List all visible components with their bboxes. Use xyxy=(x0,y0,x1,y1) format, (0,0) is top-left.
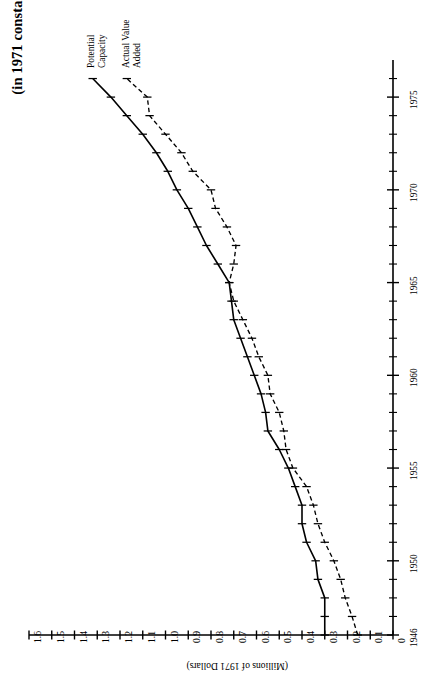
chart-figure: (in 1971 constant dollars) 00.10.20.30.4… xyxy=(0,0,422,679)
year-tick-label: 1975 xyxy=(410,91,419,110)
axes xyxy=(29,60,399,640)
series-line-1 xyxy=(93,79,325,635)
data-series-group xyxy=(89,79,362,635)
dollars-tick-label: 0.8 xyxy=(215,631,225,643)
series-label-actual-value-added: Actual Value Added xyxy=(121,19,142,68)
plot-area xyxy=(0,0,422,679)
dollars-tick-label: 0.1 xyxy=(374,631,384,643)
dollars-tick-label: 0.5 xyxy=(283,631,293,643)
dollars-tick-label: 1.6 xyxy=(33,631,43,643)
dollars-tick-label: 1.2 xyxy=(124,631,134,643)
dollars-tick-label: 1.0 xyxy=(170,631,180,643)
dollars-tick-label: 0.7 xyxy=(238,631,248,643)
dollars-tick-label: 0.6 xyxy=(261,631,271,643)
dollars-tick-label: 1.4 xyxy=(79,631,89,643)
series-label-line1: Potential xyxy=(86,35,97,68)
dollars-tick-label: 0 xyxy=(397,638,407,643)
dollars-tick-label: 1.5 xyxy=(56,631,66,643)
dollars-tick-label: 0.3 xyxy=(329,631,339,643)
dollars-tick-label: 0.4 xyxy=(306,631,316,643)
year-tick-label: 1970 xyxy=(410,183,419,202)
year-tick-label: 1950 xyxy=(410,554,419,573)
year-tick-label: 1965 xyxy=(410,276,419,295)
dollars-tick-label: 0.9 xyxy=(192,631,202,643)
dollars-tick-label: 0.2 xyxy=(352,631,362,643)
dollars-tick-label: 1.3 xyxy=(101,631,111,643)
series-label-line2: Capacity xyxy=(97,35,108,68)
series-label-line2: Added xyxy=(132,19,143,68)
series-label-line1: Actual Value xyxy=(121,19,132,68)
year-tick-label: 1960 xyxy=(410,369,419,388)
dollars-axis-title: (Millions of 1971 Dollars) xyxy=(186,661,288,672)
year-tick-label: 1955 xyxy=(410,461,419,480)
series-label-potential-capacity: Potential Capacity xyxy=(86,35,107,68)
year-tick-label: 1946 xyxy=(410,628,419,647)
dollars-tick-label: 1.1 xyxy=(147,631,157,643)
